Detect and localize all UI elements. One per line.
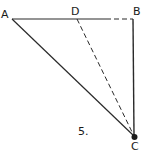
segment-AC xyxy=(12,19,134,136)
figure-number: 5. xyxy=(78,125,89,138)
label-B: B xyxy=(133,5,141,18)
label-D: D xyxy=(71,5,79,18)
label-A: A xyxy=(1,8,9,21)
geometry-figure: A D B C 5. xyxy=(0,0,143,151)
segment-DC-dashed xyxy=(77,19,134,136)
label-C: C xyxy=(131,140,139,151)
segment-BC xyxy=(133,19,134,136)
